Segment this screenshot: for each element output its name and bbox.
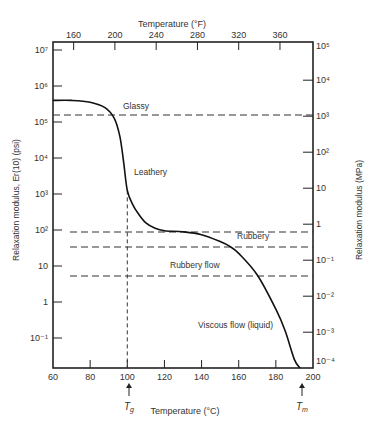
y2-tick-label: 10⁻⁴ [316,356,335,366]
svg-text:Tm: Tm [296,401,308,413]
label-glassy: Glassy [123,101,150,111]
x2-tick-label: 200 [107,30,122,40]
y-tick-label: 10 [38,261,48,271]
x2-tick-label: 160 [66,30,81,40]
y-tick-label: 10³ [35,189,48,199]
tg-marker: Tg [124,383,134,414]
tm-marker: Tm [296,383,308,413]
x-tick-label: 160 [231,372,246,382]
x-tick-label: 180 [268,372,283,382]
arrow-up-icon [126,383,132,388]
y2-tick-label: 10² [316,147,329,157]
y2-tick-label: 1 [316,219,321,229]
right-axis-title: Relaxation modulus (MPa) [354,160,364,260]
label-viscous-flow: Viscous flow (liquid) [198,320,273,330]
relaxation-modulus-chart: 6080100120140160180200160200240280320360… [0,0,374,433]
x-tick-label: 60 [48,372,58,382]
left-axis-title: Relaxation modulus, Er(10) (psi) [11,139,21,261]
x-tick-label: 100 [120,372,135,382]
axis-tick-labels: 6080100120140160180200160200240280320360… [30,30,335,382]
y-tick-label: 10⁶ [34,81,48,91]
y2-tick-label: 10⁻¹ [316,255,334,265]
bottom-axis-title: Temperature (°C) [150,406,219,416]
axis-ticks [53,42,313,368]
plot-frame [53,42,313,368]
x2-tick-label: 320 [231,30,246,40]
x-tick-label: 140 [194,372,209,382]
y2-tick-label: 10⁵ [316,41,330,51]
top-axis-title: Temperature (°F) [138,19,206,29]
y-tick-label: 10⁵ [34,117,48,127]
x-tick-label: 200 [305,372,320,382]
label-rubbery-flow: Rubbery flow [170,260,220,270]
svg-text:Tg: Tg [124,401,134,414]
x2-tick-label: 360 [272,30,287,40]
y-tick-label: 10² [35,225,48,235]
x2-tick-label: 240 [149,30,164,40]
y2-tick-label: 10⁴ [316,75,330,85]
y2-tick-label: 10³ [316,111,329,121]
y2-tick-label: 10⁻³ [316,327,334,337]
y-tick-label: 10⁻¹ [30,333,48,343]
y-tick-label: 10⁴ [34,153,48,163]
y-tick-label: 10⁷ [35,45,48,55]
arrow-up-icon [299,383,305,388]
y2-tick-label: 10 [316,183,326,193]
x2-tick-label: 280 [190,30,205,40]
reference-lines [53,115,313,368]
y-tick-label: 1 [43,297,48,307]
label-leathery: Leathery [134,167,168,177]
label-rubbery: Rubbery [237,231,270,241]
x-tick-label: 120 [157,372,172,382]
y2-tick-label: 10⁻² [316,291,334,301]
x-tick-label: 80 [85,372,95,382]
